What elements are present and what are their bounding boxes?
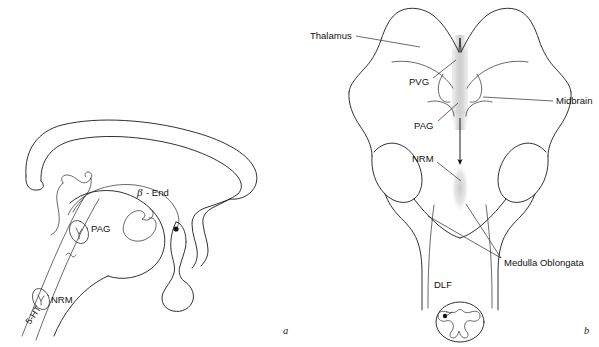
thalamus-left-lobe [349, 8, 459, 92]
label-nrm-panel-b: NRM [412, 153, 434, 164]
label-dlf: DLF [434, 279, 452, 290]
label-beta-end-text: - End [146, 187, 169, 198]
callosum-splenium [192, 199, 230, 268]
midline-pvg-shading-fade [452, 35, 468, 130]
label-nrm-panel-a: NRM [51, 294, 73, 305]
hypothalamic-floor [54, 276, 108, 336]
callosum-splenium-inner [201, 194, 238, 266]
leader-thalamus [356, 36, 420, 47]
thalamus-right-sulcus [467, 61, 528, 88]
label-beta-end-symbol: β [136, 186, 143, 198]
mammillary-detail [123, 216, 156, 241]
inferior-colliculus-left [428, 101, 454, 116]
anatomy-figure-svg: β - End PAG NRM 5-HT a [0, 0, 599, 347]
nrm-neuron [38, 295, 44, 305]
spinal-gray-matter [438, 310, 480, 339]
thalamus-hypothalamus-outline [70, 190, 165, 278]
superior-colliculus-right [470, 74, 482, 102]
label-pvg: PVG [409, 76, 429, 87]
brainstem-left-border [349, 92, 372, 156]
nrm-shading-blob [451, 162, 469, 214]
label-thalamus: Thalamus [310, 30, 352, 41]
pituitary-stalk-inner [176, 222, 186, 242]
label-pag-panel-b: PAG [414, 120, 433, 131]
fornix-lower [51, 183, 63, 235]
pituitary-stalk [162, 222, 193, 311]
panel-b-group: Thalamus PVG Midbrain PAG NRM Medulla Ob… [310, 8, 592, 342]
cerebellar-peduncle-left [372, 143, 422, 202]
brainstem-tract-inner [36, 199, 99, 340]
leader-medulla-right [466, 204, 501, 258]
fornix-septum [62, 172, 92, 183]
pag-ellipse [66, 217, 92, 246]
label-midbrain: Midbrain [556, 95, 592, 106]
panel-letter-a: a [283, 325, 288, 336]
inferior-colliculus-right [466, 101, 492, 116]
pag-neuron [76, 228, 82, 239]
medulla-left-border [385, 194, 422, 310]
beta-endorphin-terminal-dot [173, 226, 178, 231]
medulla-right-border [498, 194, 535, 310]
third-ventricle-detail [128, 209, 153, 220]
fourth-ventricle-left [414, 199, 460, 238]
pag-nucleus-panel-a [66, 217, 92, 246]
panel-letter-b: b [584, 325, 589, 336]
thalamus-right-lobe [461, 8, 571, 92]
spinal-cord-outline [436, 302, 484, 342]
leader-medulla-left [428, 216, 501, 258]
leader-midbrain [483, 97, 553, 101]
panel-a-group: β - End PAG NRM 5-HT a [22, 120, 288, 340]
cerebellar-peduncle-right [498, 143, 548, 202]
label-5ht-panel-a: 5-HT [23, 304, 43, 327]
figure-root: β - End PAG NRM 5-HT a [0, 0, 599, 347]
label-pag-panel-a: PAG [91, 223, 110, 234]
superior-colliculus-left [438, 74, 450, 102]
label-medulla-oblongata: Medulla Oblongata [504, 257, 584, 268]
